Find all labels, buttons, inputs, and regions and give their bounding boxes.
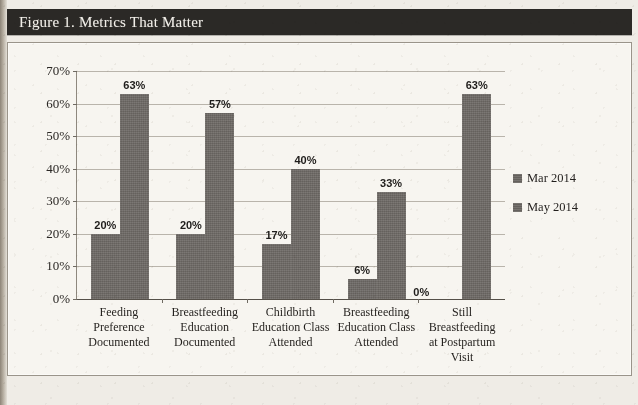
category-line: Visit: [421, 350, 503, 365]
category-line: Education Class: [335, 320, 417, 335]
bar-mar-2014[interactable]: 17%: [262, 244, 291, 299]
figure-title-bar: Figure 1. Metrics That Matter: [7, 9, 632, 35]
bar-value-label: 20%: [180, 219, 202, 231]
bar-may-2014[interactable]: 40%: [291, 169, 320, 299]
y-axis-tick-label: 30%: [46, 193, 70, 209]
bar-value-label: 57%: [209, 98, 231, 110]
legend-label: Mar 2014: [527, 171, 576, 186]
x-axis-labels: Feeding Preference Documented Breastfeed…: [76, 301, 505, 365]
y-axis-tick-label: 20%: [46, 226, 70, 242]
category-line: Education: [164, 320, 246, 335]
bar-may-2014[interactable]: 57%: [205, 113, 234, 299]
chart-frame: 70% 60% 50% 40% 30% 20% 10% 0%: [7, 42, 632, 376]
bar-group: 17% 40%: [248, 71, 334, 299]
x-axis-category-label: Breastfeeding Education Class Attended: [333, 301, 419, 365]
y-axis-tick-label: 10%: [46, 258, 70, 274]
category-line: Preference: [78, 320, 160, 335]
y-axis-tick-label: 50%: [46, 128, 70, 144]
category-line: Documented: [164, 335, 246, 350]
legend-swatch-icon: [513, 174, 522, 183]
category-line: Education Class: [250, 320, 332, 335]
bar-value-label: 17%: [265, 229, 287, 241]
y-axis-tick-label: 0%: [53, 291, 70, 307]
category-line: Breastfeeding: [335, 305, 417, 320]
y-axis-tick-label: 40%: [46, 161, 70, 177]
legend-item-mar-2014[interactable]: Mar 2014: [513, 171, 609, 186]
bar-group: 0% 63%: [419, 71, 505, 299]
figure-container: Figure 1. Metrics That Matter 70% 60% 50…: [7, 9, 632, 376]
bar-group: 20% 57%: [163, 71, 249, 299]
category-line: Still: [421, 305, 503, 320]
bar-group: 6% 33%: [334, 71, 420, 299]
bar-value-label: 6%: [354, 264, 370, 276]
y-axis-labels: 70% 60% 50% 40% 30% 20% 10% 0%: [26, 71, 70, 299]
bar-mar-2014[interactable]: 6%: [348, 279, 377, 299]
bar-mar-2014[interactable]: 20%: [91, 234, 120, 299]
bar-value-label: 63%: [123, 79, 145, 91]
category-line: at Postpartum: [421, 335, 503, 350]
page-gutter-shadow: [0, 0, 7, 405]
y-axis-tick: [73, 299, 77, 300]
x-axis-category-label: Feeding Preference Documented: [76, 301, 162, 365]
legend-swatch-icon: [513, 203, 522, 212]
category-line: Attended: [250, 335, 332, 350]
bar-group: 20% 63%: [77, 71, 163, 299]
bar-value-label: 63%: [466, 79, 488, 91]
x-axis-category-label: Still Breastfeeding at Postpartum Visit: [419, 301, 505, 365]
bar-may-2014[interactable]: 63%: [462, 94, 491, 299]
bar-mar-2014[interactable]: 20%: [176, 234, 205, 299]
bar-may-2014[interactable]: 63%: [120, 94, 149, 299]
legend-label: May 2014: [527, 200, 578, 215]
bar-may-2014[interactable]: 33%: [377, 192, 406, 299]
chart-plot-host: 70% 60% 50% 40% 30% 20% 10% 0%: [8, 43, 631, 375]
bar-value-label: 40%: [294, 154, 316, 166]
category-line: Attended: [335, 335, 417, 350]
chart-legend: Mar 2014 May 2014: [513, 171, 609, 229]
bar-value-label: 0%: [413, 286, 429, 298]
category-line: Childbirth: [250, 305, 332, 320]
figure-title: Figure 1. Metrics That Matter: [7, 14, 203, 31]
category-line: Documented: [78, 335, 160, 350]
x-axis-category-label: Breastfeeding Education Documented: [162, 301, 248, 365]
category-line: Breastfeeding: [164, 305, 246, 320]
bar-groups: 20% 63% 20% 57%: [77, 71, 505, 299]
y-axis-tick-label: 60%: [46, 96, 70, 112]
category-line: Breastfeeding: [421, 320, 503, 335]
bar-value-label: 20%: [94, 219, 116, 231]
x-axis-category-label: Childbirth Education Class Attended: [248, 301, 334, 365]
bar-value-label: 33%: [380, 177, 402, 189]
y-axis-tick-label: 70%: [46, 63, 70, 79]
plot-area: 20% 63% 20% 57%: [76, 71, 505, 300]
legend-item-may-2014[interactable]: May 2014: [513, 200, 609, 215]
category-line: Feeding: [78, 305, 160, 320]
